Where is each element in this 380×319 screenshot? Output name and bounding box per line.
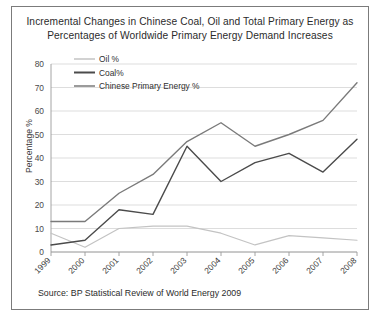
x-axis-tick-label: 2002: [134, 255, 154, 275]
chart-title-line-2: Percentages of Worldwide Primary Energy …: [12, 29, 368, 43]
chart-title: Incremental Changes in Chinese Coal, Oil…: [12, 15, 368, 43]
x-axis-tick-label: 2004: [202, 255, 222, 275]
y-axis-label: Percentage %: [24, 91, 34, 201]
x-axis-tick-label: 2006: [270, 255, 290, 275]
x-axis-tick-label: 2005: [236, 255, 256, 275]
x-axis-tick-label: 2003: [168, 255, 188, 275]
y-axis-tick-label: 20: [35, 200, 45, 210]
legend-label: Chinese Primary Energy %: [99, 81, 200, 91]
y-axis-tick-label: 30: [35, 177, 45, 187]
chart-title-line-1: Incremental Changes in Chinese Coal, Oil…: [12, 15, 368, 29]
y-axis-tick-label: 60: [35, 106, 45, 116]
plot-area: Percentage % 010203040506070801999200020…: [12, 45, 370, 275]
legend-label: Coal%: [99, 68, 124, 78]
chart-frame: Incremental Changes in Chinese Coal, Oil…: [11, 6, 369, 310]
x-axis-tick-label: 2000: [66, 255, 86, 275]
legend-label: Oil %: [99, 54, 120, 64]
y-axis-tick-label: 0: [39, 247, 44, 257]
x-axis-tick-label: 1999: [32, 255, 52, 275]
source-caption: Source: BP Statistical Review of World E…: [38, 288, 241, 298]
x-axis-tick-label: 2007: [304, 255, 324, 275]
line-chart: 0102030405060708019992000200120022003200…: [12, 45, 370, 275]
y-axis-tick-label: 70: [35, 83, 45, 93]
y-axis-tick-label: 40: [35, 153, 45, 163]
series-line-chinese-primary-energy: [51, 83, 357, 222]
chart-screenshot: Incremental Changes in Chinese Coal, Oil…: [0, 0, 380, 319]
y-axis-tick-label: 50: [35, 130, 45, 140]
x-axis-tick-label: 2008: [338, 255, 358, 275]
y-axis-tick-label: 10: [35, 224, 45, 234]
y-axis-tick-label: 80: [35, 59, 45, 69]
x-axis-tick-label: 2001: [100, 255, 120, 275]
